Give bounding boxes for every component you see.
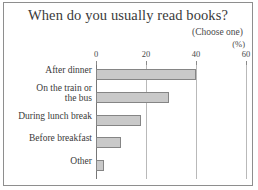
bar [96,137,121,148]
chart-title: When do you usually read books? [4,7,252,24]
x-tick-label-40: 40 [192,49,201,59]
chart-row: On the train or the bus [96,88,246,111]
plot-area: 0204060 After dinnerOn the train or the … [96,65,246,179]
bar [96,92,169,103]
gridline-60 [246,65,247,179]
x-tick-label-20: 20 [142,49,151,59]
chart-subtitle: (Choose one) [192,27,243,37]
chart-row: Other [96,156,246,179]
chart-row: After dinner [96,65,246,88]
category-label: Other [0,156,92,167]
axis-unit-label: (%) [232,39,245,49]
x-tick-label-0: 0 [94,49,98,59]
category-label: During lunch break [0,111,92,122]
x-tick-label-60: 60 [242,49,251,59]
category-label: Before breakfast [0,133,92,144]
category-label: On the train or the bus [0,83,92,104]
bar [96,69,196,80]
bar [96,115,141,126]
chart-figure: When do you usually read books? (Choose … [3,2,253,186]
chart-row: During lunch break [96,111,246,134]
tick-mark-60 [246,61,247,65]
category-label: After dinner [0,65,92,76]
chart-row: Before breakfast [96,133,246,156]
bar [96,160,104,171]
